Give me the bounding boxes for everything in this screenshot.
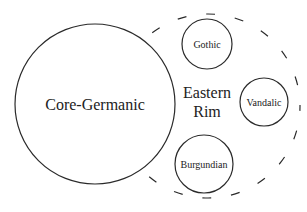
- gothic-label: Gothic: [193, 39, 221, 50]
- vandalic-label: Vandalic: [247, 97, 283, 108]
- eastern-rim-label: Eastern Rim: [183, 84, 231, 120]
- gothic-node: Gothic: [182, 19, 232, 69]
- vandalic-node: Vandalic: [240, 78, 288, 126]
- core-germanic-node: Core-Germanic: [15, 24, 175, 184]
- diagram-canvas: Core-Germanic Eastern Rim Gothic Vandali…: [0, 0, 307, 212]
- eastern-rim-label-line2: Rim: [193, 103, 221, 120]
- eastern-rim-label-line1: Eastern: [183, 84, 231, 101]
- burgundian-label: Burgundian: [180, 159, 227, 170]
- core-germanic-label: Core-Germanic: [45, 96, 145, 113]
- burgundian-node: Burgundian: [175, 135, 233, 193]
